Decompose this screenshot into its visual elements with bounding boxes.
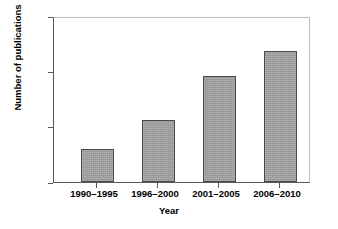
y-axis-title: Number of publications — [12, 0, 23, 133]
plot-area — [53, 17, 310, 183]
bar-2006-2010 — [264, 51, 297, 182]
bar-chart-figure: Number of publications 150 100 50 0 1990… — [0, 0, 338, 229]
x-axis-title: Year — [0, 205, 338, 216]
bar-2001-2005 — [203, 76, 236, 182]
bar-1996-2000 — [142, 120, 175, 182]
bar-1990-1995 — [81, 149, 114, 182]
x-tick-label-2006-2010: 2006–2010 — [240, 188, 314, 199]
y-tick-mark-0 — [48, 183, 53, 184]
